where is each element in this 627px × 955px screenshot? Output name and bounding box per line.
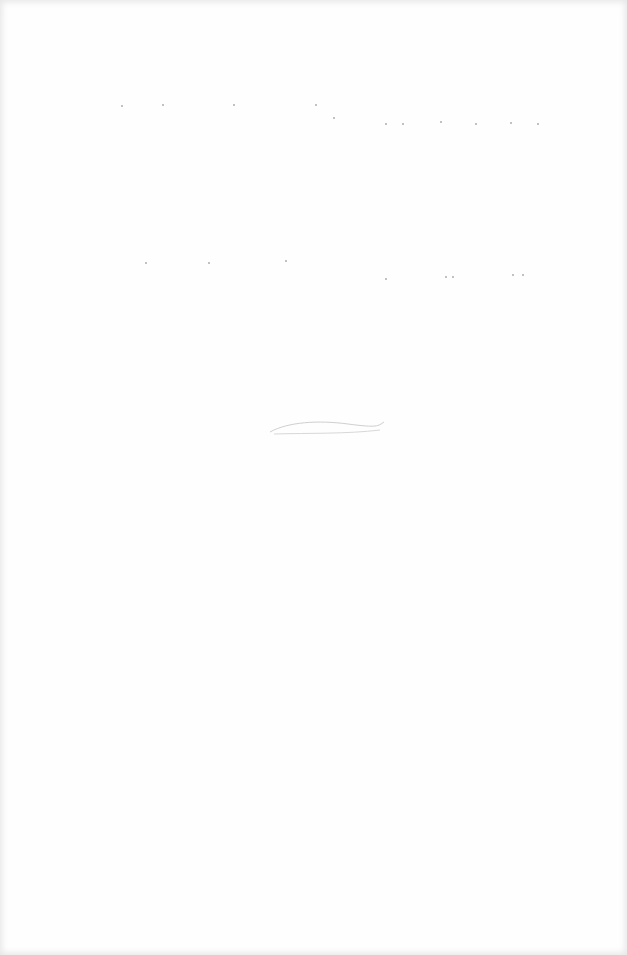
speck-mark	[285, 260, 287, 262]
speck-mark	[522, 274, 524, 276]
speck-mark	[512, 274, 514, 276]
speck-mark	[402, 123, 404, 125]
speck-mark	[445, 276, 447, 278]
speck-mark	[162, 104, 164, 106]
speck-mark	[440, 121, 442, 123]
blank-page	[0, 0, 627, 955]
speck-mark	[537, 123, 539, 125]
speck-mark	[475, 123, 477, 125]
speck-mark	[385, 123, 387, 125]
speck-mark	[145, 262, 147, 264]
speck-mark	[233, 104, 235, 106]
speck-mark	[333, 117, 335, 119]
speck-mark	[385, 278, 387, 280]
speck-mark	[121, 105, 123, 107]
speck-mark	[510, 122, 512, 124]
speck-mark	[315, 104, 317, 106]
speck-mark	[208, 262, 210, 264]
speck-mark	[452, 276, 454, 278]
faint-pen-smudge	[268, 416, 386, 436]
